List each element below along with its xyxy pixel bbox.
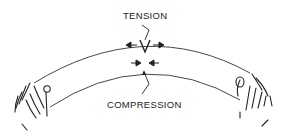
- tension-label: TENSION: [123, 10, 167, 21]
- right-hand-icon: [236, 74, 272, 126]
- compression-label: COMPRESSION: [107, 99, 182, 110]
- compression-leader-line: [142, 72, 149, 94]
- compression-leader-arrowhead: [142, 70, 146, 75]
- compression-arrows-icon: [131, 60, 159, 66]
- tension-leader-line: [142, 25, 149, 40]
- left-hand-icon: [15, 83, 50, 130]
- board-top-edge: [34, 46, 250, 83]
